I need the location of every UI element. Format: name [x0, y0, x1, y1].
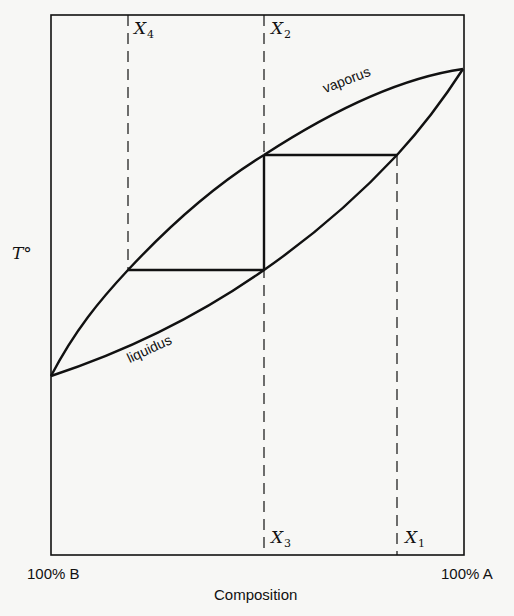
- marker-x3: X3: [271, 527, 291, 550]
- vaporus-curve: [51, 69, 463, 376]
- marker-x2: X2: [271, 18, 291, 41]
- liquidus-curve: [51, 69, 463, 376]
- x-right-label: 100% A: [441, 565, 493, 582]
- x-left-label: 100% B: [27, 565, 80, 582]
- x-axis-label: Composition: [214, 586, 297, 603]
- marker-x1: X1: [405, 527, 425, 550]
- phase-diagram-canvas: [0, 0, 514, 616]
- y-axis-label: T°: [12, 243, 32, 263]
- marker-x4: X4: [134, 18, 154, 41]
